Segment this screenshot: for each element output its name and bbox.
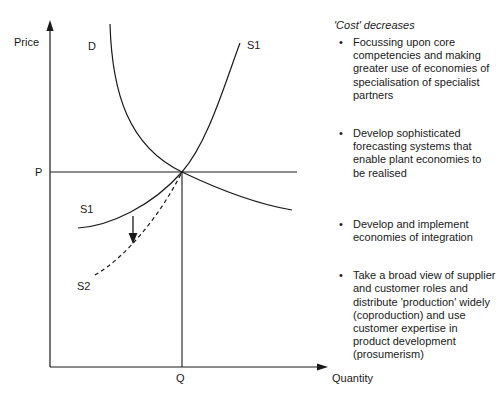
- supply-curve-s1: [78, 43, 240, 228]
- supply-curve-lower-label: S1: [80, 203, 93, 215]
- price-tick-label: P: [35, 166, 42, 178]
- bullet-icon: •: [339, 127, 343, 140]
- bullet-icon: •: [339, 218, 343, 231]
- list-item-text: Develop sophisticated forecasting system…: [353, 127, 496, 180]
- demand-curve: [110, 24, 292, 210]
- chart-svg: [0, 0, 330, 401]
- list-item: • Develop sophisticated forecasting syst…: [330, 127, 496, 180]
- list-item: • Develop and implement economies of int…: [330, 218, 496, 244]
- list-item-text: Develop and implement economies of integ…: [353, 218, 496, 244]
- list-item: • Take a broad view of supplier and cust…: [330, 269, 496, 361]
- demand-curve-label: D: [88, 40, 96, 52]
- shift-arrow: [129, 216, 138, 244]
- quantity-tick-label: Q: [176, 372, 185, 384]
- supply-curve-shifted-label: S2: [77, 280, 90, 292]
- list-item: • Focussing upon core competencies and m…: [330, 36, 496, 102]
- y-axis-title: Price: [14, 36, 39, 48]
- shift-arrowhead: [129, 233, 138, 244]
- supply-demand-diagram: Price Quantity P Q D S1 S1 S2 'Cost' dec…: [0, 0, 496, 401]
- supply-curve-s2: [95, 172, 182, 275]
- y-axis-arrowhead: [46, 20, 53, 31]
- bullet-icon: •: [339, 269, 343, 282]
- annotations-bullet-list: • Focussing upon core competencies and m…: [330, 36, 496, 362]
- list-item-text: Focussing upon core competencies and mak…: [353, 36, 496, 102]
- chart-area: Price Quantity P Q D S1 S1 S2: [0, 0, 330, 401]
- annotations-panel: 'Cost' decreases • Focussing upon core c…: [330, 0, 496, 401]
- x-axis-arrowhead: [317, 363, 328, 370]
- x-axis: [50, 363, 328, 370]
- annotations-heading: 'Cost' decreases: [334, 19, 415, 32]
- list-item-text: Take a broad view of supplier and custom…: [353, 269, 496, 361]
- bullet-icon: •: [339, 36, 343, 49]
- supply-curve-upper-label: S1: [247, 39, 260, 51]
- y-axis: [46, 20, 53, 367]
